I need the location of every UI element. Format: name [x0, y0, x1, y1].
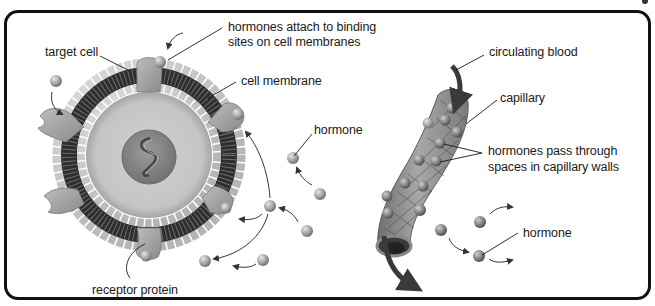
arrow-icon [168, 33, 183, 48]
label-hormone-left: hormone [314, 123, 363, 138]
arrow-icon [234, 264, 256, 267]
leader-hormone-right [482, 233, 518, 255]
arrow-icon [489, 259, 512, 262]
label-capillary: capillary [500, 91, 545, 106]
bound-hormone-right [232, 108, 244, 120]
hormone-sphere [414, 204, 426, 216]
hormone-sphere [199, 255, 211, 267]
hormone-sphere [287, 152, 299, 164]
hormone-sphere [473, 250, 485, 262]
arrow-icon [449, 238, 468, 252]
label-circulating-blood: circulating blood [489, 45, 578, 60]
capillary [377, 66, 468, 284]
label-pass-line2: spaces in capillary walls [488, 160, 619, 175]
hormone-sphere [264, 200, 276, 212]
arrow-icon [490, 207, 512, 214]
leader-attach [168, 28, 222, 60]
label-hormone-right: hormone [523, 226, 572, 241]
capillary-wall [378, 90, 468, 246]
hormone-sphere [301, 225, 313, 237]
receptor-protein-lower-left [44, 188, 84, 214]
bound-hormone-top [154, 56, 166, 68]
leader-hormone-left [294, 134, 312, 156]
free-hormones-right [414, 204, 486, 262]
hormone-sphere [474, 216, 486, 228]
label-attach-line2: sites on cell membranes [228, 35, 360, 50]
arrow-icon [214, 214, 268, 259]
label-target-cell: target cell [45, 45, 98, 60]
target-cell [38, 56, 244, 262]
hormone-sphere [435, 224, 447, 236]
label-cell-membrane: cell membrane [241, 74, 322, 89]
label-attach-line1: hormones attach to binding [228, 20, 376, 35]
hormone-sphere [314, 188, 326, 200]
hormone-sphere [257, 254, 269, 266]
leader-capillary [466, 100, 497, 124]
arrow-icon [246, 132, 270, 198]
bound-hormone-lower-right [221, 203, 232, 214]
leader-circulating-blood [456, 55, 484, 70]
label-pass-line1: hormones pass through [488, 144, 617, 159]
arrow-icon [297, 168, 312, 185]
hormone-sphere [50, 75, 62, 87]
label-receptor-protein: receptor protein [92, 283, 178, 298]
arrow-icon [280, 208, 298, 222]
bound-hormone-bottom [141, 251, 152, 262]
arrow-icon [240, 214, 262, 219]
